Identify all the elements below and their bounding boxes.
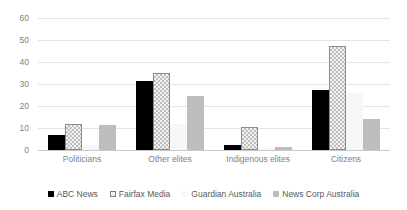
chart-legend: ABC NewsFairfax MediaGuardian AustraliaN… [0, 186, 407, 202]
y-axis-tick-50: 50 [20, 36, 29, 45]
legend-swatch-fairfax-icon [110, 191, 116, 197]
y-axis: 0102030405060 [0, 0, 34, 168]
legend-item-guardian[interactable]: Guardian Australia [182, 190, 261, 199]
bar-abc [224, 145, 241, 151]
bar-abc [136, 81, 153, 150]
bar-guardian [170, 124, 187, 150]
bar-guardian [258, 148, 275, 150]
legend-item-newscorp[interactable]: News Corp Australia [273, 190, 359, 199]
legend-item-fairfax[interactable]: Fairfax Media [110, 190, 171, 199]
bar-fairfax [329, 46, 346, 151]
y-axis-tick-40: 40 [20, 58, 29, 67]
y-axis-tick-30: 30 [20, 80, 29, 89]
bar-group [302, 18, 390, 150]
legend-swatch-abc-icon [48, 191, 54, 197]
x-axis-label: Citizens [331, 155, 361, 164]
y-axis-tick-0: 0 [24, 146, 29, 155]
bar-group [126, 18, 214, 150]
legend-label: ABC News [57, 190, 98, 199]
y-axis-tick-60: 60 [20, 14, 29, 23]
bar-fairfax [65, 124, 82, 150]
y-axis-tick-20: 20 [20, 102, 29, 111]
legend-label: News Corp Australia [282, 190, 359, 199]
legend-item-abc[interactable]: ABC News [48, 190, 98, 199]
bar-newscorp [275, 147, 292, 150]
y-axis-tick-10: 10 [20, 124, 29, 133]
bar-abc [48, 135, 65, 150]
bar-guardian [82, 145, 99, 151]
legend-swatch-guardian-icon [182, 191, 188, 197]
bar-fairfax [153, 73, 170, 150]
bar-group [38, 18, 126, 150]
legend-swatch-newscorp-icon [273, 191, 279, 197]
bar-group [214, 18, 302, 150]
gridline-0 [38, 150, 390, 151]
bar-fairfax [241, 127, 258, 150]
legend-label: Fairfax Media [119, 190, 171, 199]
bar-abc [312, 90, 329, 151]
bars-layer [38, 18, 390, 150]
bar-guardian [346, 93, 363, 150]
bar-newscorp [99, 125, 116, 150]
bar-newscorp [187, 96, 204, 150]
legend-label: Guardian Australia [191, 190, 261, 199]
x-axis-label: Indigenous elites [226, 155, 290, 164]
x-axis-label: Politicians [63, 155, 101, 164]
x-axis-label: Other elites [148, 155, 191, 164]
bar-newscorp [363, 119, 380, 150]
x-axis: PoliticiansOther elitesIndigenous elites… [38, 152, 390, 170]
bar-chart: 0102030405060 PoliticiansOther elitesInd… [0, 0, 407, 210]
